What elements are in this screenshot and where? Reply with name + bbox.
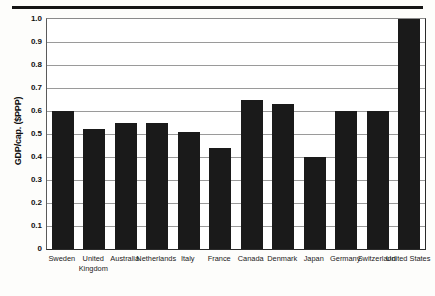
y-tick-label: 0.9: [16, 37, 42, 46]
x-axis-category-labels: SwedenUnited KingdomAustraliaNetherlands…: [46, 254, 424, 294]
y-tick-label: 0.6: [16, 106, 42, 115]
y-tick-label: 0.7: [16, 83, 42, 92]
bar: [178, 132, 200, 249]
y-tick-label: 0.8: [16, 60, 42, 69]
y-tick-label: 0: [16, 244, 42, 253]
bar: [52, 111, 74, 249]
bar: [209, 148, 231, 249]
bar: [115, 123, 137, 250]
x-tick-label: United States: [384, 254, 433, 264]
chart-figure: GDP/cap. ($PPP) 00.10.20.30.40.50.60.70.…: [0, 0, 435, 296]
y-tick-label: 0.2: [16, 198, 42, 207]
bar: [83, 129, 105, 249]
y-axis-tick-labels: 00.10.20.30.40.50.60.70.80.91.0: [16, 18, 42, 248]
y-tick-label: 0.3: [16, 175, 42, 184]
bar: [241, 100, 263, 250]
bar-series: [47, 19, 425, 249]
y-tick-label: 1.0: [16, 14, 42, 23]
top-rule-divider: [12, 6, 423, 9]
bar: [146, 123, 168, 250]
y-tick-label: 0.1: [16, 221, 42, 230]
y-tick-label: 0.5: [16, 129, 42, 138]
bar: [335, 111, 357, 249]
plot-area: [46, 18, 426, 250]
bar: [367, 111, 389, 249]
bar: [272, 104, 294, 249]
y-tick-label: 0.4: [16, 152, 42, 161]
bar: [304, 157, 326, 249]
bar: [398, 19, 420, 249]
